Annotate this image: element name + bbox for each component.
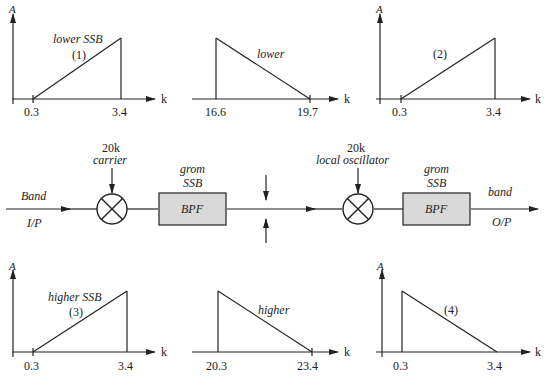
tick-label: 0.3 bbox=[24, 105, 39, 119]
axis-label-k: k bbox=[344, 345, 350, 359]
tick-label: 0.3 bbox=[393, 359, 408, 373]
axis-label-k: k bbox=[344, 92, 350, 106]
mixer-1 bbox=[97, 194, 127, 224]
mixer-2 bbox=[343, 194, 373, 224]
bpf-1-caption: grom bbox=[180, 162, 205, 176]
axis-label-k: k bbox=[535, 345, 541, 359]
tick-label: 0.3 bbox=[24, 359, 39, 373]
output-label: band bbox=[488, 185, 513, 199]
tick-label: 19.7 bbox=[297, 105, 318, 119]
tick-label: 3.4 bbox=[486, 105, 501, 119]
output-port-label: O/P bbox=[492, 215, 512, 229]
spectrum-tag: (3) bbox=[69, 305, 83, 319]
axis-label-a: A bbox=[376, 260, 384, 272]
spectrum-label: lower SSB bbox=[53, 32, 103, 46]
bpf-1-label: BPF bbox=[181, 202, 204, 216]
tick-label: 23.4 bbox=[297, 359, 318, 373]
spectrum-tag: (2) bbox=[433, 47, 447, 61]
ssb-diagram: A k lower SSB (1) 0.3 3.4 k lower 16.6 1… bbox=[0, 0, 548, 385]
input-port-label: I/P bbox=[26, 216, 42, 230]
tick-label: 20.3 bbox=[206, 359, 227, 373]
spectrum-label: lower bbox=[257, 47, 285, 61]
tick-label: 3.4 bbox=[112, 105, 127, 119]
spectrum-label: higher SSB bbox=[48, 290, 102, 304]
bpf-2-caption: SSB bbox=[427, 176, 447, 190]
spectrum-tag: (4) bbox=[444, 303, 458, 317]
spectrum-2 bbox=[376, 14, 530, 104]
input-label: Band bbox=[21, 189, 47, 203]
spectrum-3 bbox=[12, 270, 155, 357]
bpf-2-caption: grom bbox=[424, 162, 449, 176]
axis-label-k: k bbox=[161, 345, 167, 359]
tick-label: 3.4 bbox=[118, 359, 133, 373]
bpf-1-caption: SSB bbox=[183, 176, 203, 190]
spectrum-higher bbox=[192, 291, 338, 356]
carrier-label: carrier bbox=[93, 153, 127, 167]
tick-label: 3.4 bbox=[487, 359, 502, 373]
axis-label-k: k bbox=[161, 92, 167, 106]
axis-label-a: A bbox=[8, 260, 16, 272]
axis-label-a: A bbox=[8, 3, 16, 15]
spectrum-tag: (1) bbox=[72, 48, 86, 62]
local-oscillator-label: local oscillator bbox=[316, 153, 389, 167]
axis-label-k: k bbox=[535, 92, 541, 106]
spectrum-label: higher bbox=[258, 303, 290, 317]
tick-label: 0.3 bbox=[392, 105, 407, 119]
bpf-2-label: BPF bbox=[425, 202, 448, 216]
axis-label-a: A bbox=[375, 3, 383, 15]
tick-label: 16.6 bbox=[205, 105, 226, 119]
